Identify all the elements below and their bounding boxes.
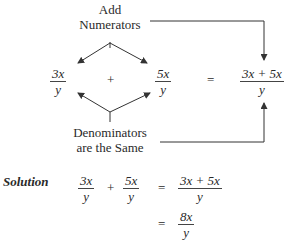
numerator: 3x xyxy=(50,67,66,82)
denominators-same-label: Denominators are the Same xyxy=(70,125,150,155)
numerator: 5x xyxy=(123,174,139,189)
solution-fraction-5x: 5x y xyxy=(123,174,139,203)
label-line: Add xyxy=(70,2,150,17)
denominator: y xyxy=(128,189,134,203)
label-line: are the Same xyxy=(70,140,150,155)
solution-label: Solution xyxy=(3,174,49,190)
solution-fraction-8x: 8x y xyxy=(178,210,194,239)
solution-fraction-result: 3x + 5x y xyxy=(178,174,222,203)
add-numerators-label: Add Numerators xyxy=(70,2,150,32)
label-line: Numerators xyxy=(70,17,150,32)
solution-fraction-3x: 3x y xyxy=(78,174,94,203)
plus-sign: + xyxy=(107,72,114,88)
label-line: Denominators xyxy=(70,125,150,140)
equals-sign: = xyxy=(158,216,165,232)
denominator: y xyxy=(183,225,189,239)
fraction-5x-over-y: 5x y xyxy=(155,67,171,96)
connector-lines xyxy=(0,0,295,240)
denominator: y xyxy=(197,189,203,203)
numerator: 8x xyxy=(178,210,194,225)
fraction-3x-over-y: 3x y xyxy=(50,67,66,96)
fraction-result: 3x + 5x y xyxy=(240,67,284,96)
plus-sign: + xyxy=(107,180,114,196)
numerator: 5x xyxy=(155,67,171,82)
denominator: y xyxy=(55,82,61,96)
equals-sign: = xyxy=(207,72,214,88)
denominator: y xyxy=(160,82,166,96)
numerator: 3x xyxy=(78,174,94,189)
equals-sign: = xyxy=(158,180,165,196)
numerator: 3x + 5x xyxy=(178,174,222,189)
denominator: y xyxy=(259,82,265,96)
numerator: 3x + 5x xyxy=(240,67,284,82)
denominator: y xyxy=(83,189,89,203)
